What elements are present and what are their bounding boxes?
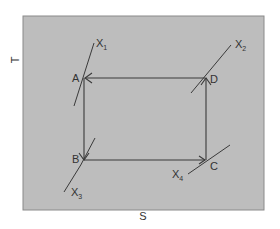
point-a-label: A [72, 72, 80, 84]
point-c-label: C [210, 160, 218, 172]
ts-cycle-diagram: A B C D X1 X2 X3 X4 S T [0, 0, 280, 229]
point-b-label: B [72, 153, 79, 165]
point-d-label: D [210, 73, 218, 85]
plot-panel [23, 16, 264, 210]
x-axis-label: S [139, 210, 146, 222]
y-axis-label: T [9, 56, 21, 63]
